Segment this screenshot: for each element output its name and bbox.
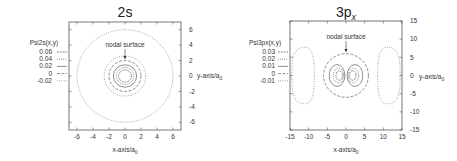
- contour-lobe: [349, 71, 356, 80]
- legend-label: 0.04: [39, 55, 52, 62]
- annotation-nodal-surface: nodal surface: [105, 41, 144, 48]
- x-tick-label: -4: [90, 133, 96, 140]
- y-tick-label: -4: [189, 103, 195, 110]
- legend-label: 0.03: [262, 48, 275, 55]
- contour-circle: [104, 56, 146, 96]
- legend-label: 0: [271, 70, 275, 77]
- annotation-nodal-surface: nodal surface: [326, 33, 365, 40]
- legend: 0.060.040.020-0.02: [37, 48, 67, 84]
- contour-circle: [324, 54, 369, 98]
- x-tick-label: 0: [344, 133, 348, 140]
- x-tick-label: 0: [123, 133, 127, 140]
- plot-frame: [69, 22, 181, 130]
- contour-figure: 2s -6-4-20246 6420-2-4-6 x-axis/a0 y-axi…: [0, 0, 457, 161]
- x-axis-label: x-axis/a0: [112, 146, 137, 155]
- y-tick-label: -6: [189, 118, 195, 125]
- contour-outer-lobe: [292, 47, 314, 104]
- legend: 0.030.020.010-0.01: [260, 48, 288, 84]
- legend-label: 0: [48, 70, 52, 77]
- chart-title: 2s: [118, 4, 133, 20]
- y-tick-label: -2: [189, 88, 195, 95]
- x-tick-label: 15: [398, 133, 406, 140]
- y-tick-label: 0: [189, 72, 193, 79]
- annotation-arrowhead: [345, 49, 348, 53]
- y-axis-label: y-axis/a0: [197, 72, 222, 81]
- contour-lobe: [333, 68, 343, 83]
- y-tick-label: 5: [410, 54, 414, 61]
- y-tick-label: 2: [189, 57, 193, 64]
- y-tick-label: 10: [410, 35, 418, 42]
- legend-label: 0.02: [262, 55, 275, 62]
- legend-title: Psi3px(x,y): [249, 39, 281, 47]
- panel-2s: 2s -6-4-20246 6420-2-4-6 x-axis/a0 y-axi…: [30, 4, 223, 155]
- annotation-arrowhead: [124, 56, 127, 60]
- x-tick-label: -6: [74, 133, 80, 140]
- y-tick-label: 4: [189, 41, 193, 48]
- x-tick-label: -5: [324, 133, 330, 140]
- contour-circle: [119, 70, 132, 82]
- legend-label: 0.06: [39, 48, 52, 55]
- contour-outer-lobe: [378, 47, 400, 104]
- legend-label: -0.01: [260, 77, 275, 84]
- x-axis-label: x-axis/a0: [333, 146, 358, 155]
- x-tick-label: -2: [106, 133, 112, 140]
- y-tick-label: 0: [410, 72, 414, 79]
- panel-3px: 3px -15-10-5051015 151050-5-10-15 x-axis…: [249, 4, 444, 155]
- legend-label: 0.02: [39, 62, 52, 69]
- x-tick-label: 4: [155, 133, 159, 140]
- legend-label: -0.02: [37, 77, 52, 84]
- y-tick-label: -15: [410, 126, 420, 133]
- y-tick-label: 6: [189, 26, 193, 33]
- contour-lines: [292, 47, 400, 104]
- y-tick-label: -10: [410, 108, 420, 115]
- contour-lobe: [336, 71, 343, 80]
- y-axis-label: y-axis/a0: [419, 73, 444, 82]
- contour-lobe: [348, 68, 358, 83]
- x-tick-label: 6: [171, 133, 175, 140]
- x-tick-label: -10: [304, 133, 314, 140]
- contour-circle: [109, 61, 141, 92]
- contour-circle: [113, 65, 136, 87]
- legend-title: Psi2s(x,y): [30, 39, 59, 47]
- x-tick-label: 2: [139, 133, 143, 140]
- legend-label: 0.01: [262, 62, 275, 69]
- y-tick-label: 15: [410, 17, 418, 24]
- x-tick-label: 5: [363, 133, 367, 140]
- x-tick-label: -15: [285, 133, 295, 140]
- chart-title: 3px: [336, 4, 357, 22]
- x-tick-label: 10: [380, 133, 388, 140]
- y-tick-label: -5: [410, 90, 416, 97]
